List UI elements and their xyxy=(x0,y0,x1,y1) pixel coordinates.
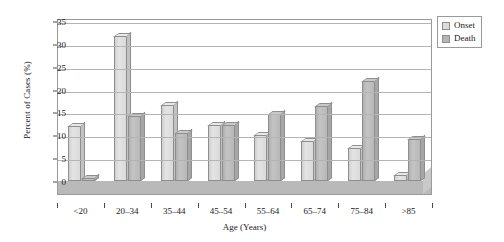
bar-onset xyxy=(348,148,361,181)
bar-death xyxy=(362,81,375,181)
bar-side xyxy=(141,112,145,181)
bar-face xyxy=(362,81,375,181)
bar-death xyxy=(128,116,141,181)
bar-group xyxy=(338,20,385,181)
gridline xyxy=(58,114,431,115)
plot-area xyxy=(57,19,432,195)
legend-label-onset: Onset xyxy=(454,21,475,30)
y-axis-tick-label: 35 xyxy=(26,17,66,27)
gridline xyxy=(58,160,431,161)
y-axis-tick-mark xyxy=(53,159,57,160)
y-axis-tick-label: 15 xyxy=(26,108,66,118)
bar-face xyxy=(268,114,281,181)
bar-group xyxy=(151,20,198,181)
bar-death xyxy=(82,178,95,181)
bar-face xyxy=(68,126,81,181)
gridline xyxy=(58,69,431,70)
legend-item-onset: Onset xyxy=(442,21,476,30)
x-axis-title: Age (Years) xyxy=(57,222,432,232)
y-axis-title: Percent of Cases (%) xyxy=(22,35,32,165)
x-axis-labels: <2020–3435–4445–5455–6465–7475–84>85 xyxy=(57,206,432,216)
bar-side xyxy=(375,77,379,181)
bar-onset xyxy=(161,105,174,181)
y-axis-tick-mark xyxy=(53,22,57,23)
bar-group xyxy=(245,20,292,181)
bar-face xyxy=(254,135,267,181)
x-axis-tick-label: 55–64 xyxy=(245,206,292,216)
bar-side xyxy=(281,110,285,181)
x-axis-tick-label: 65–74 xyxy=(291,206,338,216)
bar-face xyxy=(315,106,328,181)
bar-death xyxy=(222,125,235,181)
bar-chart: Percent of Cases (%) 05101520253035 <202… xyxy=(0,0,504,242)
chart-floor xyxy=(58,181,431,194)
bar-side xyxy=(421,135,425,181)
bars-layer xyxy=(58,20,431,181)
bar-face xyxy=(161,105,174,181)
x-axis-tick-label: >85 xyxy=(385,206,432,216)
y-axis-tick-mark xyxy=(53,44,57,45)
bar-death xyxy=(315,106,328,181)
y-axis-tick-mark xyxy=(53,67,57,68)
bar-face xyxy=(348,148,361,181)
x-axis-tick-label: 35–44 xyxy=(151,206,198,216)
gridline xyxy=(58,46,431,47)
x-axis-tick-label: 20–34 xyxy=(104,206,151,216)
bar-death xyxy=(175,133,188,181)
bar-group xyxy=(384,20,431,181)
y-axis-tick-label: 5 xyxy=(26,154,66,164)
y-axis-tick-label: 30 xyxy=(26,40,66,50)
y-axis-tick-label: 20 xyxy=(26,86,66,96)
bar-group xyxy=(291,20,338,181)
x-axis-tick-label: <20 xyxy=(57,206,104,216)
bar-face xyxy=(175,133,188,181)
y-axis-tick-mark xyxy=(53,182,57,183)
gridline xyxy=(58,92,431,93)
x-axis-tick-label: 45–54 xyxy=(198,206,245,216)
y-axis-tick-mark xyxy=(53,136,57,137)
bar-group xyxy=(105,20,152,181)
bar-side xyxy=(328,101,332,181)
bar-death xyxy=(268,114,281,181)
bar-side xyxy=(81,122,85,181)
gridline xyxy=(58,23,431,24)
bar-onset xyxy=(254,135,267,181)
bar-face xyxy=(222,125,235,181)
bar-face xyxy=(208,125,221,181)
bar-onset xyxy=(208,125,221,181)
bar-face xyxy=(128,116,141,181)
y-axis-tick-label: 25 xyxy=(26,63,66,73)
bar-group xyxy=(198,20,245,181)
y-axis-tick-mark xyxy=(53,90,57,91)
y-axis-tick-label: 10 xyxy=(26,131,66,141)
bar-onset xyxy=(68,126,81,181)
chart-legend: Onset Death xyxy=(437,16,482,48)
x-axis-tick-mark xyxy=(432,203,433,208)
y-axis-tick-mark xyxy=(53,113,57,114)
gridline xyxy=(58,137,431,138)
legend-swatch-onset-icon xyxy=(442,22,450,30)
x-axis-tick-label: 75–84 xyxy=(338,206,385,216)
bar-onset xyxy=(394,175,407,181)
legend-label-death: Death xyxy=(454,34,476,43)
legend-item-death: Death xyxy=(442,34,476,43)
y-axis-tick-label: 0 xyxy=(26,177,66,187)
legend-swatch-death-icon xyxy=(442,35,450,43)
bar-side xyxy=(235,121,239,181)
